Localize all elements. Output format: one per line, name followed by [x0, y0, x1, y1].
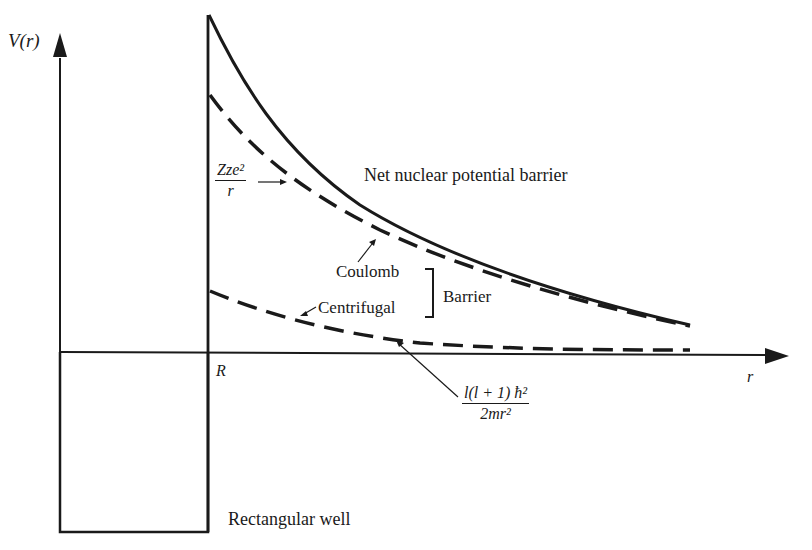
coulomb-label: Coulomb: [336, 262, 399, 282]
y-axis-label: V(r): [8, 30, 40, 52]
potential-diagram-canvas: [0, 0, 812, 550]
x-tick-label-R: R: [216, 362, 226, 380]
centrifugal-formula: l(l + 1) ħ² 2mr²: [462, 384, 529, 423]
net-barrier-label: Net nuclear potential barrier: [364, 165, 567, 186]
barrier-label: Barrier: [443, 287, 491, 307]
y-axis: [53, 33, 67, 352]
centrifugal-label: Centrifugal: [318, 298, 395, 318]
rectangular-well-label: Rectangular well: [228, 509, 350, 530]
coulomb-formula-denominator: r: [215, 181, 246, 200]
centrifugal-formula-numerator: l(l + 1) ħ²: [462, 384, 529, 404]
centrifugal-label-pointer: [300, 307, 316, 316]
x-axis-label: r: [747, 368, 753, 386]
coulomb-formula-numerator: Zze²: [215, 161, 246, 181]
x-axis-arrow-icon: [765, 348, 789, 364]
rectangular-well: [60, 352, 208, 532]
barrier-bracket: [425, 269, 433, 317]
centrifugal-formula-denominator: 2mr²: [462, 404, 529, 423]
coulomb-formula: Zze² r: [215, 161, 246, 200]
centrifugal-formula-pointer: [396, 340, 458, 397]
coulomb-label-pointer: [358, 239, 376, 262]
x-axis: [60, 348, 789, 364]
y-axis-arrow-icon: [53, 33, 67, 57]
coulomb-formula-pointer: [258, 179, 287, 185]
